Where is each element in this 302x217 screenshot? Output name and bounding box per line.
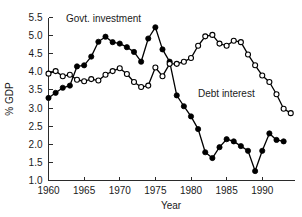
data-point [203, 34, 208, 39]
data-point [96, 78, 101, 83]
x-tick-label: 1980 [180, 185, 203, 196]
data-point [174, 93, 179, 98]
data-point [46, 71, 51, 76]
data-point [160, 47, 165, 52]
data-point [117, 66, 122, 71]
data-point [96, 39, 101, 44]
data-point [139, 59, 144, 64]
data-point [224, 43, 229, 48]
x-axis-title: Year [161, 200, 182, 211]
data-point [146, 83, 151, 88]
data-point [103, 72, 108, 77]
data-point [110, 40, 115, 45]
data-point [217, 145, 222, 150]
y-tick-label: 2.0 [29, 139, 43, 150]
y-tick-label: 1.5 [29, 157, 43, 168]
data-point [189, 56, 194, 61]
y-tick-label: 5.0 [29, 30, 43, 41]
data-point [188, 114, 193, 119]
data-point [267, 79, 272, 84]
y-tick-label: 3.5 [29, 84, 43, 95]
data-point [203, 150, 208, 155]
data-point [46, 95, 51, 100]
data-point [210, 155, 215, 160]
data-point [117, 41, 122, 46]
data-point [82, 79, 87, 84]
data-point [82, 63, 87, 68]
data-point [210, 32, 215, 37]
data-point [260, 148, 265, 153]
data-point [67, 83, 72, 88]
data-point [139, 85, 144, 90]
data-point [53, 90, 58, 95]
data-point [132, 79, 137, 84]
data-point [124, 72, 129, 77]
data-point [231, 38, 236, 43]
data-point [231, 139, 236, 144]
data-point [167, 61, 172, 66]
y-tick-label: 2.5 [29, 121, 43, 132]
data-point [281, 106, 286, 111]
data-point [281, 139, 286, 144]
data-point [181, 104, 186, 109]
data-point [174, 61, 179, 66]
data-point [224, 137, 229, 142]
data-point [238, 40, 243, 45]
data-point [238, 143, 243, 148]
line-chart: 1.01.52.02.53.03.54.04.55.05.5 196019651… [0, 0, 302, 217]
axis-lines [49, 18, 295, 181]
series-debt-interest [46, 32, 293, 115]
data-point [110, 69, 115, 74]
x-tick-label: 1965 [73, 185, 96, 196]
x-tick-label: 1970 [109, 185, 132, 196]
data-point [67, 72, 72, 77]
data-point [245, 148, 250, 153]
data-point [217, 41, 222, 46]
data-point [260, 73, 265, 78]
y-tick-label: 4.5 [29, 48, 43, 59]
x-tick-label: 1960 [37, 185, 60, 196]
x-tick-label: 1990 [251, 185, 274, 196]
data-point [75, 77, 80, 82]
y-tick-label: 5.5 [29, 12, 43, 23]
data-point [274, 92, 279, 97]
data-point [124, 45, 129, 50]
data-point [60, 74, 65, 79]
x-tick-label: 1975 [144, 185, 167, 196]
data-point [196, 126, 201, 131]
y-tick-label: 3.0 [29, 103, 43, 114]
data-point [153, 25, 158, 30]
chart-axes [49, 18, 295, 181]
debt-interest-annotation: Debt interest [198, 88, 255, 99]
y-tick-labels: 1.01.52.02.53.03.54.04.55.05.5 [29, 12, 43, 186]
data-point [60, 85, 65, 90]
y-axis-title: % GDP [4, 82, 15, 116]
data-point [146, 36, 151, 41]
data-point [253, 168, 258, 173]
data-point [131, 49, 136, 54]
data-point [267, 131, 272, 136]
data-point [246, 52, 251, 57]
data-point [160, 74, 165, 79]
data-point [103, 34, 108, 39]
data-point [274, 137, 279, 142]
y-tick-label: 4.0 [29, 66, 43, 77]
data-point [53, 69, 58, 74]
series-line [49, 35, 291, 113]
x-tick-label: 1985 [216, 185, 239, 196]
data-point [153, 65, 158, 70]
x-tick-marks [49, 177, 263, 181]
data-point [288, 111, 293, 116]
data-point [196, 43, 201, 48]
x-tick-labels: 1960196519701975198019851990 [37, 185, 273, 196]
data-point [89, 77, 94, 82]
chart-series [46, 25, 293, 174]
data-point [181, 59, 186, 64]
chart-figure: 1.01.52.02.53.03.54.04.55.05.5 196019651… [0, 0, 302, 217]
govt-investment-annotation: Govt. investment [66, 13, 141, 24]
data-point [89, 54, 94, 59]
data-point [74, 64, 79, 69]
data-point [253, 63, 258, 68]
series-govt-investment [46, 25, 286, 174]
